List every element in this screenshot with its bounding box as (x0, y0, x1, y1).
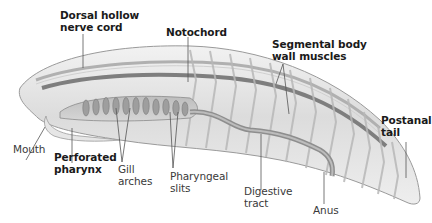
label-gill-arches: Gill arches (118, 163, 152, 187)
label-postanal-tail: Postanal tail (381, 114, 432, 138)
label-notochord: Notochord (166, 26, 227, 38)
label-anus: Anus (313, 204, 339, 216)
label-segmental-muscles: Segmental body wall muscles (272, 38, 367, 62)
chordate-diagram: Dorsal hollow nerve cord Notochord Segme… (0, 0, 432, 223)
label-digestive-tract: Digestive tract (244, 185, 292, 209)
label-dorsal-nerve-cord: Dorsal hollow nerve cord (60, 9, 139, 33)
label-mouth: Mouth (13, 143, 45, 155)
label-perforated-pharynx: Perforated pharynx (54, 151, 117, 175)
label-pharyngeal-slits: Pharyngeal slits (170, 170, 228, 194)
